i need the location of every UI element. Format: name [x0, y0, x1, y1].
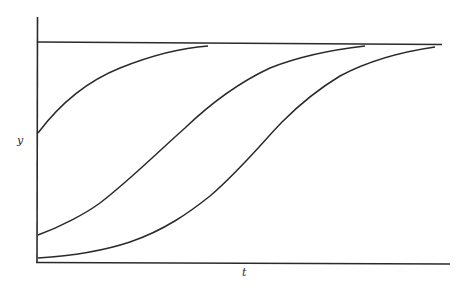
curve-high-start: [38, 46, 208, 133]
x-axis-label: t: [242, 266, 246, 279]
logistic-growth-chart: [0, 0, 463, 286]
y-axis: [37, 17, 38, 263]
curve-mid-start: [38, 46, 365, 235]
asymptote-line: [38, 42, 442, 45]
y-axis-label: y: [17, 134, 23, 147]
x-axis: [36, 263, 450, 265]
